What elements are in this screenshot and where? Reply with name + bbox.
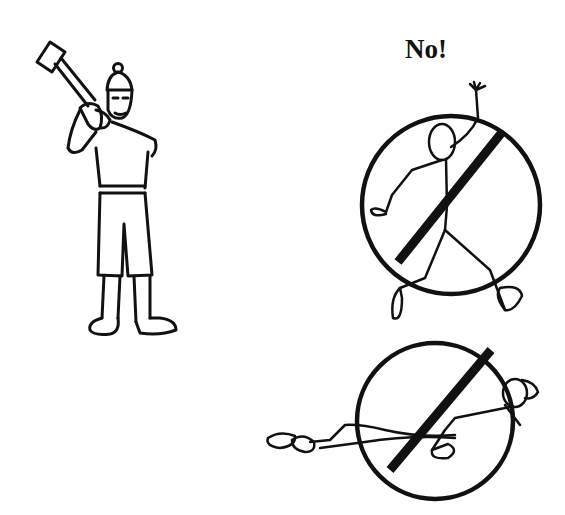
prohibition-slash-icon bbox=[390, 350, 491, 470]
worker-with-sledgehammer-figure bbox=[37, 42, 176, 335]
prohibited-overreaching-figure bbox=[362, 82, 540, 319]
prohibited-lying-down-figure bbox=[268, 343, 539, 499]
prohibition-slash-icon bbox=[398, 131, 503, 262]
illustration-canvas bbox=[0, 0, 565, 515]
